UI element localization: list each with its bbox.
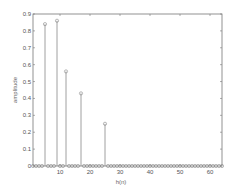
- y-tick-label: 0.5: [23, 79, 32, 85]
- x-tick-label: 20: [87, 169, 94, 175]
- x-tick-label: 30: [117, 169, 124, 175]
- y-tick-label: 0.7: [23, 45, 32, 51]
- x-tick-label: 40: [147, 169, 154, 175]
- x-tick-label: 50: [177, 169, 184, 175]
- x-axis-label: h(n): [116, 179, 127, 185]
- y-tick-label: 0.6: [23, 62, 32, 68]
- y-tick-label: 0.3: [23, 112, 32, 118]
- x-tick-label: 10: [57, 169, 64, 175]
- y-tick-label: 0.1: [23, 146, 32, 152]
- y-tick-label: 0: [28, 163, 32, 169]
- y-axis-label: amplitude: [12, 76, 18, 103]
- x-tick-label: 60: [207, 169, 214, 175]
- axes-box: [33, 14, 222, 166]
- y-tick-label: 0.2: [23, 129, 32, 135]
- plot-area: 00.10.20.30.40.50.60.70.80.9102030405060: [23, 11, 224, 175]
- y-tick-label: 0.9: [23, 11, 32, 17]
- stem-chart: 00.10.20.30.40.50.60.70.80.9102030405060…: [0, 0, 236, 194]
- y-tick-label: 0.4: [23, 95, 32, 101]
- y-tick-label: 0.8: [23, 28, 32, 34]
